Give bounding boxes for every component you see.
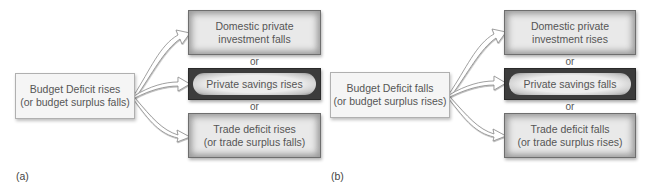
savings-pill: Private savings falls — [509, 73, 631, 95]
target-line-1: Private savings falls — [524, 78, 617, 91]
source-line-2: (or budget surplus falls) — [20, 96, 130, 109]
target-line-1: Domestic private — [531, 20, 609, 33]
or-connector-2: or — [504, 101, 636, 113]
target-line-1: Domestic private — [215, 20, 293, 33]
target-box-trade-deficit: Trade deficit falls (or trade surplus ri… — [504, 113, 636, 158]
panel-b: Budget Deficit falls (or budget surplus … — [324, 0, 651, 193]
or-connector-1: or — [188, 56, 321, 68]
source-line-2: (or budget surplus rises) — [333, 95, 446, 108]
panel-label-a: (a) — [16, 170, 29, 182]
target-line-2: investment falls — [218, 33, 290, 46]
target-line-2: (or trade surplus falls) — [204, 136, 306, 149]
target-box-trade-deficit: Trade deficit rises (or trade surplus fa… — [188, 113, 321, 158]
target-line-1: Trade deficit falls — [531, 123, 610, 136]
source-line-1: Budget Deficit rises — [30, 83, 120, 96]
panel-label-b: (b) — [331, 170, 344, 182]
target-line-1: Private savings rises — [206, 78, 302, 91]
target-box-savings: Private savings falls — [504, 68, 636, 100]
target-line-1: Trade deficit rises — [213, 123, 295, 136]
savings-pill: Private savings rises — [193, 73, 316, 95]
source-box-budget-deficit: Budget Deficit falls (or budget surplus … — [330, 72, 450, 118]
panel-a: Budget Deficit rises (or budget surplus … — [0, 0, 327, 193]
source-line-1: Budget Deficit falls — [347, 82, 434, 95]
or-connector-1: or — [504, 56, 636, 68]
or-connector-2: or — [188, 101, 321, 113]
target-box-savings: Private savings rises — [188, 68, 321, 100]
target-box-investment: Domestic private investment falls — [188, 10, 321, 55]
target-box-investment: Domestic private investment rises — [504, 10, 636, 55]
target-line-2: (or trade surplus rises) — [517, 136, 622, 149]
target-line-2: investment rises — [532, 33, 608, 46]
source-box-budget-deficit: Budget Deficit rises (or budget surplus … — [15, 73, 135, 119]
